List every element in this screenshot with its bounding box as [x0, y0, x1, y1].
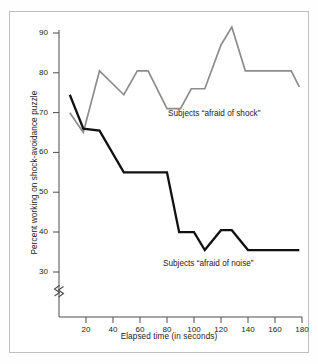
series-label-noise: Subjects “afraid of noise” — [163, 259, 254, 268]
y-axis-title: Percent working on shock-avoidance puzzl… — [30, 73, 39, 273]
x-axis-title: Elapsed time (in seconds) — [59, 332, 279, 341]
series-line-noise — [70, 95, 299, 250]
x-axis-ticks — [86, 317, 302, 323]
y-tick-label-90: 90 — [30, 28, 48, 37]
series-label-shock: Subjects “afraid of shock” — [168, 109, 260, 118]
chart-plot-area — [0, 0, 318, 364]
chart-figure: 90 80 70 60 50 40 30 20 40 60 80 100 120… — [0, 0, 318, 364]
x-tick-label-180: 180 — [291, 325, 313, 334]
y-axis-ticks — [53, 33, 59, 272]
